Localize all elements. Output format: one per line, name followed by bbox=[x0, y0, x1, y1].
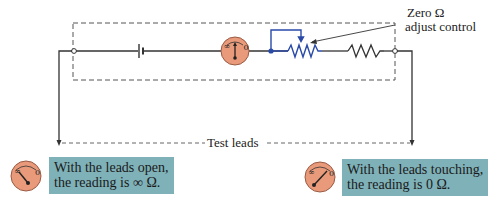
svg-text:∞: ∞ bbox=[224, 42, 231, 51]
right-terminal bbox=[393, 49, 398, 54]
fixed-resistor-icon bbox=[348, 45, 384, 57]
svg-text:∞: ∞ bbox=[308, 168, 315, 177]
meter-icon-inline: ∞ 0 bbox=[221, 37, 249, 65]
svg-text:0: 0 bbox=[329, 169, 334, 178]
test-lead-left-tip bbox=[57, 140, 62, 146]
test-lead-right bbox=[397, 51, 412, 142]
test-lead-left bbox=[59, 51, 72, 142]
meter-icon-touching: ∞ 0 bbox=[305, 162, 335, 192]
caption-leads-open: With the leads open, the reading is ∞ Ω. bbox=[49, 157, 174, 194]
annotation-line-1: Zero Ω bbox=[407, 6, 476, 20]
annotation-arrow bbox=[310, 25, 395, 44]
caption-leads-touching: With the leads touching, the reading is … bbox=[342, 159, 488, 196]
zero-adjust-annotation: Zero Ω adjust control bbox=[407, 6, 476, 34]
svg-text:∞: ∞ bbox=[14, 167, 21, 176]
svg-text:0: 0 bbox=[35, 168, 40, 177]
caption-touching-line-1: With the leads touching, bbox=[347, 162, 483, 177]
test-lead-right-tip bbox=[410, 140, 415, 146]
meter-icon-open: ∞ 0 bbox=[11, 161, 41, 191]
annotation-line-2: adjust control bbox=[405, 20, 476, 34]
caption-touching-line-2: the reading is 0 Ω. bbox=[347, 177, 483, 192]
test-leads-label: Test leads bbox=[207, 136, 258, 150]
battery-icon bbox=[139, 44, 143, 58]
caption-open-line-2: the reading is ∞ Ω. bbox=[54, 175, 169, 190]
svg-text:0: 0 bbox=[244, 43, 249, 52]
caption-open-line-1: With the leads open, bbox=[54, 160, 169, 175]
junction-dot bbox=[268, 48, 273, 53]
left-terminal bbox=[72, 49, 77, 54]
